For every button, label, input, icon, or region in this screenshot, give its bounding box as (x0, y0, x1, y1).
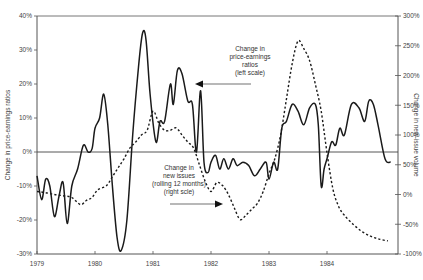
x-tick-label: 1983 (262, 260, 277, 267)
left-tick-label: -10% (17, 182, 32, 189)
right-tick-label: -50% (403, 221, 418, 228)
pe-ratio-line (37, 30, 391, 251)
left-tick-label: 40% (19, 12, 32, 19)
x-axis-ticks: 197919801981198219831984 (30, 251, 335, 267)
right-tick-label: 250% (403, 42, 420, 49)
right-axis-label: Change in new-issue volume (412, 93, 420, 177)
pe-arrow-head-icon (195, 81, 203, 88)
x-tick-label: 1984 (320, 260, 335, 267)
left-tick-label: 0% (23, 148, 33, 155)
left-tick-label: 10% (19, 114, 32, 121)
ni-arrow-head-icon (215, 201, 223, 208)
right-tick-label: 0% (403, 191, 413, 198)
pe-annotation-line-1: Change in (235, 45, 265, 53)
ni-annotation-line-1: Change in (164, 164, 194, 172)
ni-annotation-line-3: (rolling 12 months) (152, 180, 206, 188)
left-tick-label: 30% (19, 46, 32, 53)
right-tick-label: 300% (403, 12, 420, 19)
x-tick-label: 1979 (30, 260, 45, 267)
x-tick-label: 1981 (146, 260, 161, 267)
pe-annotation-line-2: price-earnings (229, 53, 271, 61)
right-tick-label: -100% (403, 250, 422, 257)
right-tick-label: 200% (403, 72, 420, 79)
new-issues-line (37, 40, 388, 240)
left-axis-label: Change in price-earnings ratios (4, 89, 12, 180)
pe-annotation-line-3: ratios (242, 61, 259, 68)
new-issues-annotation: Change in new issues (rolling 12 months)… (152, 164, 223, 208)
ni-annotation-line-4: (right scle) (164, 188, 194, 196)
x-tick-label: 1982 (204, 260, 219, 267)
left-tick-label: -30% (17, 250, 32, 257)
x-tick-label: 1980 (88, 260, 103, 267)
left-axis-ticks: 40%30%20%10%0%-10%-20%-30% (17, 12, 37, 257)
ni-annotation-line-2: new issues (163, 172, 196, 179)
chart: 40%30%20%10%0%-10%-20%-30% 300%250%200%1… (0, 0, 423, 280)
left-tick-label: -20% (17, 216, 32, 223)
pe-annotation: Change in price-earnings ratios (left sc… (195, 45, 271, 88)
pe-annotation-line-4: (left scale) (235, 69, 265, 77)
left-tick-label: 20% (19, 80, 32, 87)
